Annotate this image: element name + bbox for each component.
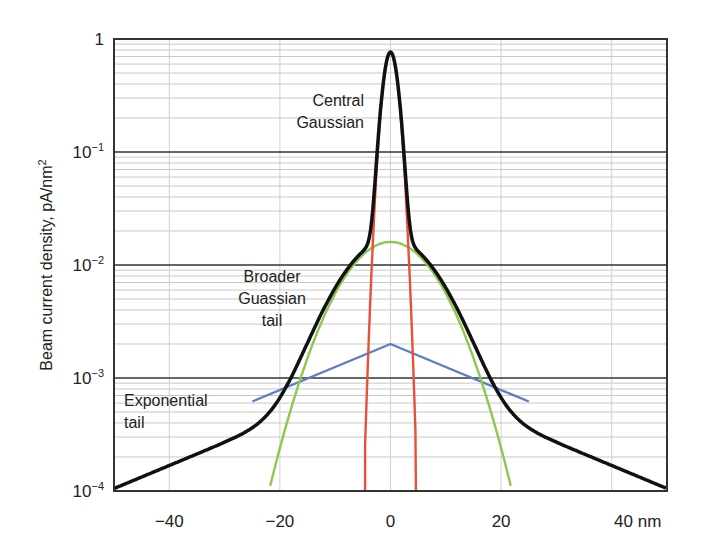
svg-text:tail: tail (124, 414, 144, 431)
beam-density-chart: −40−2002040 nm 110−110−210−310−4 Beam cu… (0, 0, 702, 552)
x-axis-ticks: −40−2002040 nm (155, 512, 661, 531)
y-tick-label: 10−2 (73, 254, 104, 275)
y-tick-label: 10−1 (73, 141, 104, 162)
svg-text:Guassian: Guassian (238, 290, 306, 307)
svg-text:tail: tail (262, 312, 282, 329)
svg-text:Gaussian: Gaussian (296, 114, 364, 131)
x-tick-label: −20 (265, 512, 294, 531)
y-tick-label: 10−4 (73, 480, 104, 501)
svg-text:Central: Central (312, 92, 364, 109)
annotation-broader-gaussian-tail: Broader Guassian tail (238, 268, 306, 329)
x-tick-label: 0 (386, 512, 395, 531)
svg-text:Broader: Broader (244, 268, 302, 285)
y-axis-ticks: 110−110−210−310−4 (73, 30, 104, 501)
annotation-exponential-tail: Exponential tail (124, 392, 208, 431)
y-tick-label: 1 (95, 30, 104, 49)
y-tick-label: 10−3 (73, 367, 104, 388)
x-tick-label: −40 (155, 512, 184, 531)
y-axis-label: Beam current density, pA/nm2 (36, 159, 55, 370)
x-tick-label: 40 nm (614, 512, 661, 531)
x-tick-label: 20 (492, 512, 511, 531)
svg-text:Exponential: Exponential (124, 392, 208, 409)
